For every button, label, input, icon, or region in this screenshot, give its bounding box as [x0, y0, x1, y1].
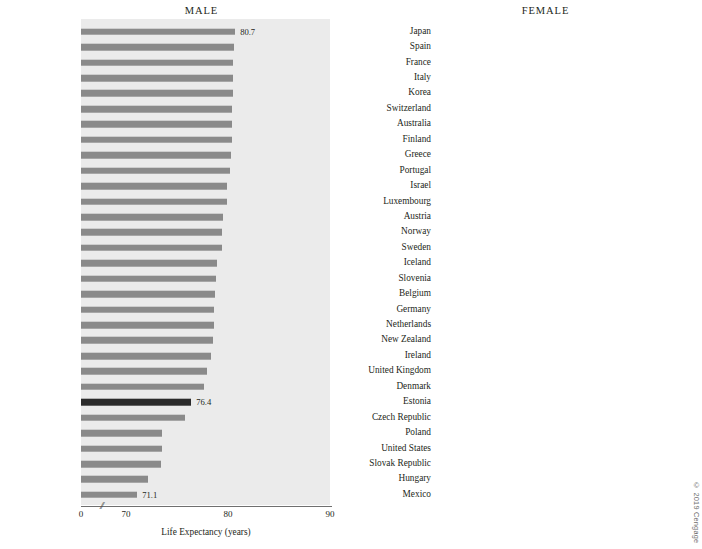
bar-row: Switzerland: [350, 101, 701, 116]
bar-row: Ireland: [350, 348, 701, 363]
panel-title: FEMALE: [350, 5, 701, 16]
bar-row: Austria: [350, 209, 701, 224]
bar-row: Estonia: [350, 395, 701, 410]
category-label: Australia: [397, 120, 431, 129]
bar-row: Korea: [0, 302, 351, 317]
bar-value-label: 76.4: [196, 398, 211, 407]
category-label: Mexico: [403, 490, 431, 499]
bar-row: Hungary: [0, 472, 351, 487]
bar: [81, 275, 216, 282]
bar-row: Switzerland80.7: [0, 24, 351, 39]
bar-row: Finland: [0, 348, 351, 363]
bar-row: Germany: [0, 286, 351, 301]
category-label: Estonia: [403, 398, 431, 407]
bar-row: Japan86.6: [350, 24, 701, 39]
copyright-credit: © 2019 Cengage: [692, 481, 701, 543]
category-label: Germany: [396, 305, 431, 314]
bar-value-label: 80.7: [240, 27, 255, 36]
bar: [81, 229, 222, 236]
bar-rows: Switzerland80.7IcelandIsraelItalyJapanSp…: [0, 24, 351, 503]
bar-row: Mexico77.4: [350, 487, 701, 502]
bar: [81, 291, 215, 298]
bar: [81, 44, 234, 51]
bar-row: Korea: [350, 86, 701, 101]
x-tick-label: 0: [79, 510, 84, 519]
bar-row: United Kingdom: [350, 364, 701, 379]
bar-row: Czech Republic: [350, 410, 701, 425]
bar-row: Finland: [350, 132, 701, 147]
bar-row: France: [0, 225, 351, 240]
bar-row: Poland: [350, 425, 701, 440]
bar: [81, 136, 232, 143]
bar-row: Greece: [0, 256, 351, 271]
bar-row: Portugal: [350, 163, 701, 178]
bar-row: Poland: [0, 425, 351, 440]
category-label: New Zealand: [381, 336, 431, 345]
bar-row: Greece: [350, 148, 701, 163]
bar-row: Ireland: [0, 240, 351, 255]
bar-row: United Kingdom: [0, 209, 351, 224]
category-label: Ireland: [405, 351, 431, 360]
bar: [81, 445, 162, 452]
x-tick-label: 90: [326, 510, 335, 519]
bar: [81, 383, 204, 390]
bar: [81, 90, 233, 97]
category-label: Belgium: [399, 290, 431, 299]
category-label: Switzerland: [387, 104, 431, 113]
category-label: United Kingdom: [368, 367, 431, 376]
bar: [81, 121, 232, 128]
bar-row: Denmark: [0, 317, 351, 332]
bar: [81, 106, 232, 113]
bar-row: Iceland: [0, 39, 351, 54]
bar: [81, 322, 214, 329]
category-label: Norway: [401, 228, 431, 237]
x-axis-line: [81, 506, 332, 507]
bar: [81, 368, 207, 375]
bar: [81, 167, 230, 174]
bar-row: Italy: [350, 70, 701, 85]
bar-row: Slovenia: [350, 271, 701, 286]
category-label: Czech Republic: [372, 413, 431, 422]
bar-row: Australia: [350, 117, 701, 132]
bar: [81, 430, 162, 437]
x-tick-label: 80: [224, 510, 233, 519]
bar-row: Australia: [0, 132, 351, 147]
bar: [81, 260, 217, 267]
bar-row: Norway: [350, 225, 701, 240]
bar: [81, 306, 214, 313]
chart-panel-female: FEMALEJapan86.6SpainFranceItalyKoreaSwit…: [350, 0, 701, 549]
bar-row: New Zealand: [350, 333, 701, 348]
category-label: Slovak Republic: [369, 459, 431, 468]
panel-title: MALE: [0, 5, 351, 16]
bar: [81, 461, 161, 468]
axis-break-marker: //: [100, 500, 102, 511]
bar-row: Belgium: [0, 333, 351, 348]
bar-row: Spain: [0, 101, 351, 116]
category-label: Hungary: [398, 475, 431, 484]
category-label: Slovenia: [398, 274, 431, 283]
category-label: Finland: [403, 135, 431, 144]
bar-row: Israel: [350, 178, 701, 193]
category-label: Israel: [410, 181, 431, 190]
bar: [81, 414, 185, 421]
bar-row: Estonia: [0, 456, 351, 471]
category-label: Denmark: [396, 382, 431, 391]
bar-row: United States81.2: [350, 441, 701, 456]
bar: [81, 152, 231, 159]
category-label: Netherlands: [386, 320, 431, 329]
bar: [81, 353, 211, 360]
bar: [81, 214, 223, 221]
figure: MALESwitzerland80.7IcelandIsraelItalyJap…: [0, 0, 702, 549]
bar-rows: Japan86.6SpainFranceItalyKoreaSwitzerlan…: [350, 24, 701, 503]
bar-row: Noway: [0, 163, 351, 178]
bar-row: Netherlands: [0, 178, 351, 193]
bar-row: Luxembourg: [350, 194, 701, 209]
bar: [81, 492, 137, 499]
bar: [81, 183, 227, 190]
category-label: Poland: [405, 428, 431, 437]
bar-row: Portugal: [0, 364, 351, 379]
bar-row: Germany: [350, 302, 701, 317]
bar-row: Spain: [350, 39, 701, 54]
bar-row: Hungary: [350, 472, 701, 487]
chart-panel-male: MALESwitzerland80.7IcelandIsraelItalyJap…: [0, 0, 351, 549]
